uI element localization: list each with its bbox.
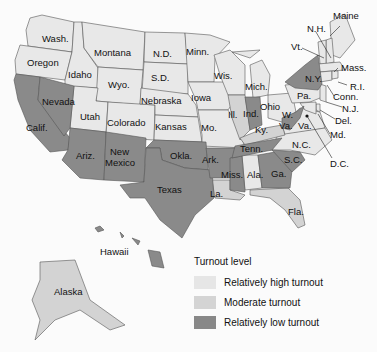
label-oregon: Oregon (27, 57, 59, 68)
legend-title: Turnout level (194, 256, 323, 267)
label-ny: N.Y. (305, 73, 322, 84)
state-nj (320, 84, 326, 102)
label-mich: Mich. (245, 81, 268, 92)
label-okla: Okla. (170, 150, 192, 161)
label-mass: Mass. (341, 62, 366, 73)
legend-item-low: Relatively low turnout (194, 312, 323, 332)
label-mo: Mo. (201, 122, 217, 133)
label-nh: N.H. (307, 23, 326, 34)
label-nj: N.J. (342, 103, 359, 114)
label-minn: Minn. (186, 46, 209, 57)
label-utah: Utah (80, 111, 100, 122)
label-kansas: Kansas (155, 121, 187, 132)
state-ri (332, 71, 338, 79)
label-la: La. (210, 188, 223, 199)
label-vt: Vt. (291, 41, 303, 52)
label-nd: N.D. (153, 48, 172, 59)
state-alaska (32, 260, 125, 340)
label-ohio: Ohio (260, 101, 280, 112)
state-vt (318, 40, 326, 64)
legend-item-high: Relatively high turnout (194, 272, 323, 292)
label-miss: Miss. (221, 169, 243, 180)
label-iowa: Iowa (191, 92, 212, 103)
label-ark: Ark. (202, 154, 219, 165)
label-del: Del. (335, 115, 352, 126)
label-wis: Wis. (214, 70, 232, 81)
label-conn: Conn. (333, 91, 358, 102)
label-wash: Wash. (42, 33, 69, 44)
label-wyo: Wyo. (108, 79, 130, 90)
legend-swatch-high (194, 276, 216, 289)
label-nevada: Nevada (42, 96, 75, 107)
label-texas: Texas (157, 184, 182, 195)
label-fla: Fla. (288, 206, 304, 217)
label-nc: N.C. (292, 139, 311, 150)
label-idaho: Idaho (68, 69, 92, 80)
label-ala: Ala. (247, 169, 263, 180)
label-wva: Va. (279, 120, 293, 131)
label-ky: Ky. (255, 124, 268, 135)
label-mexico: Mexico (105, 157, 135, 168)
label-va: Va. (298, 120, 312, 131)
label-new: New (110, 146, 129, 157)
label-md: Md. (330, 129, 346, 140)
label-montana: Montana (94, 47, 132, 58)
label-sc: S.C. (284, 154, 302, 165)
legend: Turnout level Relatively high turnout Mo… (194, 256, 323, 332)
label-calif: Calif. (26, 122, 48, 133)
legend-item-moderate: Moderate turnout (194, 292, 323, 312)
label-alaska: Alaska (54, 286, 83, 297)
label-hawaii: Hawaii (100, 246, 129, 257)
legend-label-high: Relatively high turnout (224, 277, 323, 288)
dc-dot (305, 114, 308, 117)
legend-label-moderate: Moderate turnout (224, 297, 300, 308)
label-colorado: Colorado (107, 117, 146, 128)
legend-swatch-moderate (194, 296, 216, 309)
state-del (316, 104, 320, 112)
legend-swatch-low (194, 316, 216, 329)
label-dc: D.C. (330, 158, 349, 169)
label-ariz: Ariz. (76, 150, 95, 161)
label-nebraska: Nebraska (141, 95, 182, 106)
legend-label-low: Relatively low turnout (224, 317, 319, 328)
label-ga: Ga. (271, 168, 286, 179)
label-maine: Maine (333, 10, 359, 21)
label-pa: Pa. (297, 90, 311, 101)
label-tenn: Tenn. (240, 143, 263, 154)
label-ill: Ill. (228, 109, 238, 120)
label-sd: S.D. (151, 72, 169, 83)
label-ind: Ind. (243, 108, 259, 119)
label-w: W. (282, 109, 293, 120)
